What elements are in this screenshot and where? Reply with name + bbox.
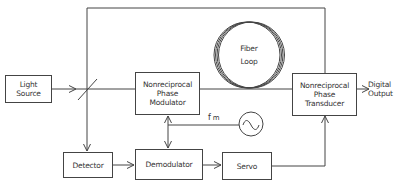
phase-transducer-label-3: Transducer [305, 99, 344, 108]
demodulator-label: Demodulator [146, 160, 193, 169]
light-source-label-1: Light [20, 80, 38, 89]
fm-label: fm [208, 113, 228, 123]
digital-output-label: Digital Output [368, 80, 404, 98]
phase-modulator-label-1: Nonreciprocal [143, 80, 192, 89]
phase-transducer-label-1: Nonreciprocal [300, 81, 349, 90]
fm-label-f: f [208, 113, 211, 122]
digital-output-label-1: Digital [368, 80, 404, 89]
phase-modulator-label-3: Modulator [149, 98, 185, 107]
servo-label: Servo [237, 162, 258, 171]
phase-modulator-label-2: Phase [157, 89, 178, 98]
fiber-loop-label: Fiber Loop [231, 44, 267, 66]
phase-transducer-block: Nonreciprocal Phase Transducer [292, 73, 357, 116]
servo-block: Servo [222, 152, 272, 180]
connector-servo-to-transducer [272, 116, 325, 166]
digital-output-label-2: Output [368, 89, 404, 98]
fiber-loop-label-1: Fiber [231, 44, 267, 53]
light-source-label-2: Source [16, 89, 41, 98]
sine-wave-icon [243, 121, 259, 130]
detector-block: Detector [63, 152, 113, 178]
detector-label: Detector [72, 161, 103, 170]
demodulator-block: Demodulator [135, 149, 203, 180]
connector-top-path [87, 8, 325, 89]
fiber-loop-label-2: Loop [231, 57, 267, 66]
phase-transducer-label-2: Phase [314, 90, 335, 99]
phase-modulator-block: Nonreciprocal Phase Modulator [135, 72, 200, 115]
fm-label-sub: m [213, 114, 220, 122]
light-source-block: Light Source [5, 75, 52, 103]
